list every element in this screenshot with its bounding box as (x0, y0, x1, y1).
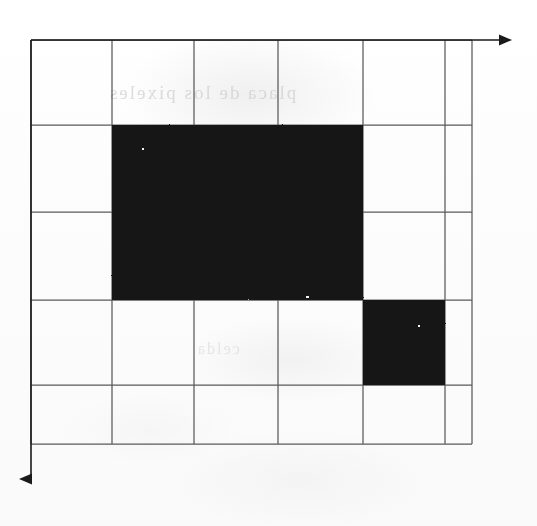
figure-canvas: placa de los pixeles celda (0, 0, 537, 526)
grid-diagram (0, 0, 537, 526)
small-filled-square (363, 300, 445, 385)
large-filled-rectangle (112, 125, 363, 300)
